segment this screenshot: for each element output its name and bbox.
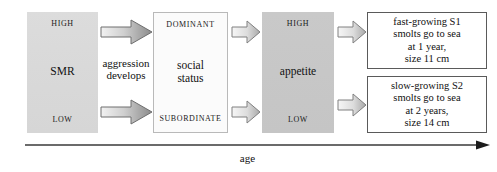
outcome-s1-line2: smolts go to sea xyxy=(393,28,460,40)
outcome-s1-text: fast-growing S1 smolts go to sea at 1 ye… xyxy=(393,16,460,65)
outcome-s2-line4: size 14 cm xyxy=(391,117,463,129)
stage-box-social-status: DOMINANT social status SUBORDINATE xyxy=(153,12,228,133)
outcome-s1-line3: at 1 year, xyxy=(393,41,460,53)
status-middle-wrap: social status xyxy=(155,29,226,114)
age-axis-arrow xyxy=(22,139,492,153)
diagram-canvas: HIGH SMR LOW aggression develops xyxy=(0,0,497,172)
social-status-label: social status xyxy=(155,59,226,84)
outcome-box-s2: slow-growing S2 smolts go to sea at 2 ye… xyxy=(367,76,487,133)
appetite-high-label: HIGH xyxy=(264,19,332,28)
smr-middle-wrap: SMR xyxy=(29,28,96,115)
aggression-line2: develops xyxy=(98,69,154,81)
outcome-s2-line3: at 2 years, xyxy=(391,105,463,117)
appetite-middle-wrap: appetite xyxy=(264,28,332,115)
social-status-line2: status xyxy=(155,72,226,84)
aggression-develops-label: aggression develops xyxy=(98,57,154,81)
smr-low-label: LOW xyxy=(29,115,96,124)
outcome-box-s1: fast-growing S1 smolts go to sea at 1 ye… xyxy=(367,12,487,69)
appetite-label: appetite xyxy=(264,65,332,77)
arrow-smr-to-status-upper xyxy=(100,18,154,46)
outcome-s1-line1: fast-growing S1 xyxy=(393,16,460,28)
aggression-line1: aggression xyxy=(98,57,154,69)
arrow-smr-to-status-lower xyxy=(100,98,154,126)
smr-label: SMR xyxy=(29,65,96,77)
arrow-status-to-appetite-lower xyxy=(231,99,261,125)
age-axis-label: age xyxy=(205,152,290,164)
arrow-appetite-to-s1 xyxy=(337,19,367,45)
appetite-low-label: LOW xyxy=(264,115,332,124)
outcome-s1-line4: size 11 cm xyxy=(393,53,460,65)
smr-high-label: HIGH xyxy=(29,19,96,28)
arrow-status-to-appetite-upper xyxy=(231,19,261,45)
stage-box-appetite: HIGH appetite LOW xyxy=(262,12,334,133)
social-status-line1: social xyxy=(155,59,226,71)
arrow-appetite-to-s2 xyxy=(337,92,367,118)
outcome-s2-text: slow-growing S2 smolts go to sea at 2 ye… xyxy=(391,80,463,129)
outcome-s2-line1: slow-growing S2 xyxy=(391,80,463,92)
outcome-s2-line2: smolts go to sea xyxy=(391,92,463,104)
stage-box-smr: HIGH SMR LOW xyxy=(27,12,98,133)
dominant-label: DOMINANT xyxy=(155,20,226,29)
subordinate-label: SUBORDINATE xyxy=(155,114,226,123)
